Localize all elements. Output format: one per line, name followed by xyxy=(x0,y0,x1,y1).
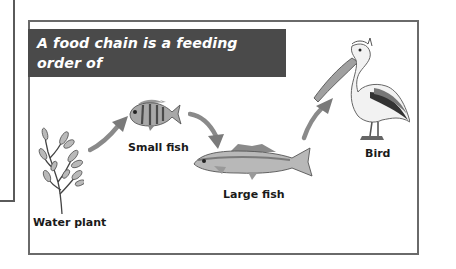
label-water-plant: Water plant xyxy=(33,216,106,229)
label-large-fish: Large fish xyxy=(223,188,285,201)
large-fish-icon xyxy=(192,140,318,182)
small-fish-icon xyxy=(126,96,184,132)
adjacent-panel-edge xyxy=(0,0,15,202)
label-bird: Bird xyxy=(365,147,390,160)
label-small-fish: Small fish xyxy=(128,141,189,154)
pelican-icon xyxy=(312,36,410,142)
water-plant-icon xyxy=(36,124,84,216)
caption-banner: A food chain is a feeding order of organ… xyxy=(28,29,286,77)
caption-line-1: A food chain is a feeding order of xyxy=(37,33,286,73)
